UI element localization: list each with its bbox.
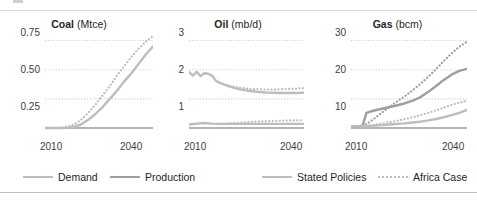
series-line bbox=[363, 42, 467, 126]
top-crumb-mark bbox=[13, 0, 23, 3]
legend-label-africa-case: Africa Case bbox=[413, 171, 467, 183]
series-line bbox=[189, 123, 304, 124]
legend-label-production: Production bbox=[145, 171, 195, 183]
legend-item-production[interactable]: Production bbox=[110, 168, 195, 186]
ytick-coal-2: 0.25 bbox=[4, 102, 40, 112]
xtick-coal-1: 2040 bbox=[120, 142, 142, 152]
chart-panel-gas: Gas (bcm) 30 20 10 2010 2040 bbox=[318, 14, 477, 166]
ytick-gas-1: 20 bbox=[318, 65, 346, 75]
ytick-gas-2: 10 bbox=[318, 102, 346, 112]
legend-label-demand: Demand bbox=[58, 171, 98, 183]
ytick-oil-2: 1 bbox=[162, 102, 184, 112]
series-line bbox=[351, 69, 467, 126]
xtick-oil-0: 2010 bbox=[184, 142, 206, 152]
ytick-gas-0: 30 bbox=[318, 28, 346, 38]
legend-item-africa-case[interactable]: Africa Case bbox=[378, 168, 467, 186]
chart-panel-coal: Coal (Mtce) 0.75 0.50 0.25 2010 2040 bbox=[0, 14, 158, 166]
ytick-oil-1: 2 bbox=[162, 65, 184, 75]
series-line bbox=[220, 83, 304, 90]
legend-swatch-africa-case-icon bbox=[378, 176, 408, 178]
chart-legend: Demand Production Stated Policies Africa… bbox=[0, 168, 477, 188]
legend-swatch-stated-policies-icon bbox=[262, 176, 292, 178]
bottom-divider bbox=[0, 192, 477, 193]
xtick-coal-0: 2010 bbox=[40, 142, 62, 152]
plot-area-coal bbox=[45, 26, 153, 138]
legend-swatch-demand-icon bbox=[23, 176, 53, 178]
ytick-coal-1: 0.50 bbox=[4, 65, 40, 75]
plot-area-oil bbox=[189, 26, 304, 138]
legend-item-demand[interactable]: Demand bbox=[23, 168, 98, 186]
xtick-gas-1: 2040 bbox=[442, 142, 464, 152]
xtick-gas-0: 2010 bbox=[345, 142, 367, 152]
chart-panel-oil: Oil (mb/d) 3 2 1 2010 2040 bbox=[158, 14, 318, 166]
chart-panels: Coal (Mtce) 0.75 0.50 0.25 2010 2040 Oil… bbox=[0, 14, 477, 166]
plot-area-gas bbox=[351, 26, 467, 138]
legend-item-stated-policies[interactable]: Stated Policies bbox=[262, 168, 366, 186]
legend-label-stated-policies: Stated Policies bbox=[297, 171, 366, 183]
series-line bbox=[45, 36, 153, 128]
series-line bbox=[45, 46, 153, 128]
series-line bbox=[189, 72, 304, 93]
xtick-oil-1: 2040 bbox=[280, 142, 302, 152]
legend-swatch-production-icon bbox=[110, 176, 140, 178]
ytick-coal-0: 0.75 bbox=[4, 28, 40, 38]
ytick-oil-0: 3 bbox=[162, 28, 184, 38]
top-divider bbox=[0, 10, 477, 11]
